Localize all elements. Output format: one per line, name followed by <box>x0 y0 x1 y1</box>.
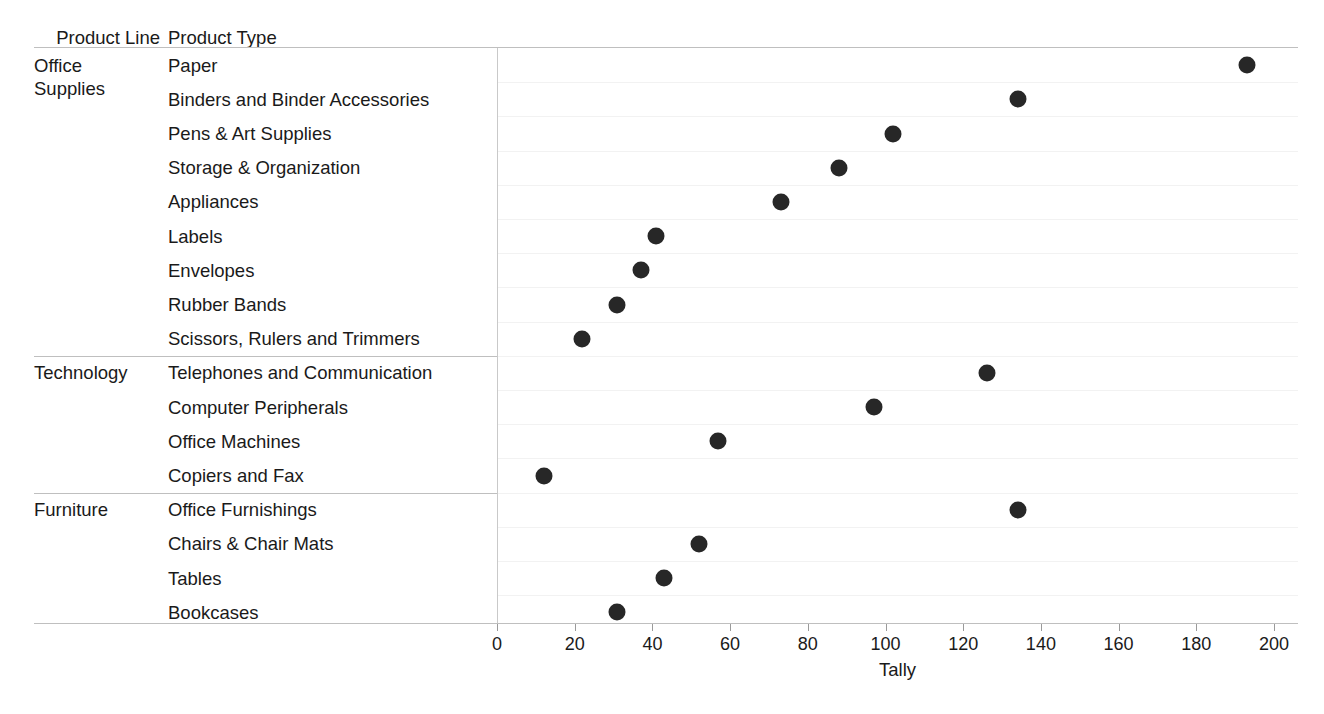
x-axis-tick-label: 140 <box>1026 633 1056 655</box>
gridline <box>497 116 1298 117</box>
x-axis-tick-label: 0 <box>492 633 502 655</box>
data-point[interactable] <box>1009 501 1026 518</box>
row-label-product-type: Tables <box>168 567 221 590</box>
data-point[interactable] <box>978 364 995 381</box>
x-axis-tick-label: 160 <box>1104 633 1134 655</box>
column-header-product-type: Product Type <box>168 27 277 48</box>
x-axis-tick <box>1041 624 1042 631</box>
data-point[interactable] <box>885 125 902 142</box>
x-axis-tick <box>963 624 964 631</box>
row-label-product-type: Computer Peripherals <box>168 396 348 419</box>
x-axis-title: Tally <box>497 659 1298 681</box>
x-axis-tick-label: 80 <box>798 633 818 655</box>
row-label-product-type: Office Machines <box>168 430 300 453</box>
data-point[interactable] <box>691 535 708 552</box>
gridline <box>497 561 1298 562</box>
x-axis-tick-label: 120 <box>948 633 978 655</box>
gridline <box>497 82 1298 83</box>
data-point[interactable] <box>830 159 847 176</box>
x-axis-tick <box>1196 624 1197 631</box>
row-label-product-type: Office Furnishings <box>168 498 317 521</box>
x-axis-tick-label: 20 <box>565 633 585 655</box>
row-label-product-line: Furniture <box>34 498 160 521</box>
row-label-product-type: Storage & Organization <box>168 156 360 179</box>
data-point[interactable] <box>656 570 673 587</box>
data-point[interactable] <box>710 433 727 450</box>
row-label-product-type: Paper <box>168 54 217 77</box>
x-axis-tick <box>1274 624 1275 631</box>
gridline <box>497 287 1298 288</box>
data-point[interactable] <box>609 604 626 621</box>
data-point[interactable] <box>632 262 649 279</box>
gridline <box>497 356 1298 357</box>
gridline <box>497 185 1298 186</box>
dot-plot-chart: Product Line Product Type PaperBinders a… <box>0 0 1324 714</box>
data-point[interactable] <box>1238 57 1255 74</box>
gridline <box>497 458 1298 459</box>
row-label-product-type: Appliances <box>168 190 259 213</box>
row-label-product-type: Envelopes <box>168 259 254 282</box>
gridline <box>497 253 1298 254</box>
x-axis-tick-label: 200 <box>1259 633 1289 655</box>
x-axis-tick <box>730 624 731 631</box>
data-point[interactable] <box>772 193 789 210</box>
row-label-product-type: Rubber Bands <box>168 293 286 316</box>
gridline <box>497 493 1298 494</box>
data-point[interactable] <box>648 228 665 245</box>
row-label-product-type: Telephones and Communication <box>168 361 432 384</box>
row-label-product-type: Chairs & Chair Mats <box>168 532 334 555</box>
x-axis-tick <box>652 624 653 631</box>
x-axis-tick <box>1119 624 1120 631</box>
data-point[interactable] <box>535 467 552 484</box>
column-header-product-line: Product Line <box>34 27 160 48</box>
y-axis-line <box>497 48 498 623</box>
x-axis-tick <box>497 624 498 631</box>
gridline <box>497 151 1298 152</box>
gridline <box>497 322 1298 323</box>
row-label-product-type: Copiers and Fax <box>168 464 304 487</box>
gridline <box>497 390 1298 391</box>
row-label-product-type: Pens & Art Supplies <box>168 122 332 145</box>
table-header-row: Product Line Product Type <box>0 27 1324 48</box>
x-axis-tick-label: 40 <box>642 633 662 655</box>
row-label-product-line: Office Supplies <box>34 54 160 100</box>
header-rule <box>34 47 1298 48</box>
data-point[interactable] <box>1009 91 1026 108</box>
x-axis-tick <box>886 624 887 631</box>
gridline <box>497 527 1298 528</box>
row-label-product-type: Labels <box>168 225 223 248</box>
row-label-product-type: Bookcases <box>168 601 259 624</box>
x-axis-tick <box>575 624 576 631</box>
row-label-product-type: Scissors, Rulers and Trimmers <box>168 327 420 350</box>
x-axis-tick-label: 60 <box>720 633 740 655</box>
gridline <box>497 424 1298 425</box>
x-axis-tick-label: 180 <box>1181 633 1211 655</box>
row-label-product-line: Technology <box>34 361 160 384</box>
gridline <box>497 219 1298 220</box>
gridline <box>497 595 1298 596</box>
data-point[interactable] <box>609 296 626 313</box>
x-axis-tick <box>808 624 809 631</box>
row-label-product-type: Binders and Binder Accessories <box>168 88 429 111</box>
data-point[interactable] <box>865 399 882 416</box>
data-point[interactable] <box>574 330 591 347</box>
x-axis-tick-label: 100 <box>870 633 900 655</box>
